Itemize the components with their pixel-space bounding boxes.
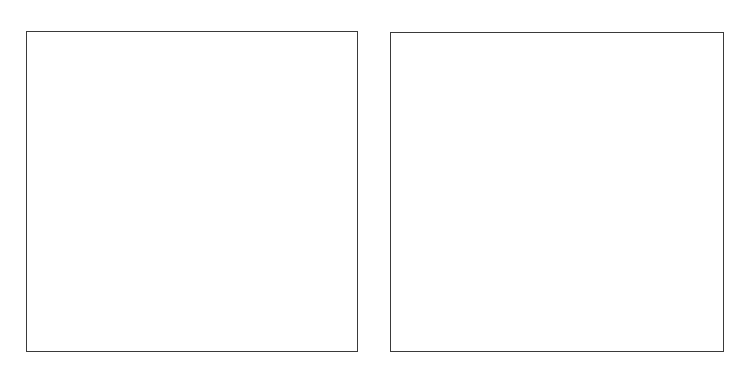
right-empty-panel [390, 32, 724, 352]
left-empty-panel [26, 31, 358, 352]
